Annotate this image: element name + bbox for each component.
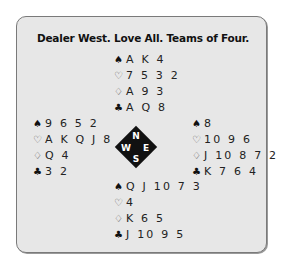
south-hearts: 4 [126,195,135,211]
east-hearts: 10 9 6 [204,132,252,148]
diamond-icon: ♢ [32,148,43,164]
north-hearts: 7 5 3 2 [126,68,180,84]
heart-icon: ♡ [113,68,124,84]
club-icon: ♣ [113,100,124,116]
compass-north-label: N [131,131,141,141]
heart-icon: ♡ [113,195,124,211]
north-spades: A K 4 [126,52,166,68]
spade-icon: ♠ [113,179,124,195]
compass-south-label: S [131,154,141,164]
east-spades: 8 [204,116,213,132]
west-clubs: 3 2 [45,164,69,180]
north-clubs: A Q 8 [126,100,167,116]
deal-title: Dealer West. Love All. Teams of Four. [0,32,286,44]
west-spades: 9 6 5 2 [45,116,99,132]
spade-icon: ♠ [191,116,202,132]
east-clubs: K 7 6 4 [204,164,258,180]
spade-icon: ♠ [113,52,124,68]
north-diamonds: A 9 3 [126,84,166,100]
club-icon: ♣ [191,164,202,180]
diamond-icon: ♢ [113,211,124,227]
heart-icon: ♡ [191,132,202,148]
club-icon: ♣ [113,227,124,243]
compass-east-label: E [141,143,151,153]
diamond-icon: ♢ [191,148,202,164]
diamond-icon: ♢ [113,84,124,100]
east-diamonds: J 10 8 7 2 [204,148,278,164]
south-diamonds: K 6 5 [126,211,165,227]
south-spades: Q J 10 7 3 [126,179,202,195]
south-clubs: J 10 9 5 [126,227,185,243]
west-diamonds: Q 4 [45,148,71,164]
west-hearts: A K Q J 8 [45,132,112,148]
heart-icon: ♡ [32,132,43,148]
spade-icon: ♠ [32,116,43,132]
club-icon: ♣ [32,164,43,180]
compass-west-label: W [121,143,131,153]
